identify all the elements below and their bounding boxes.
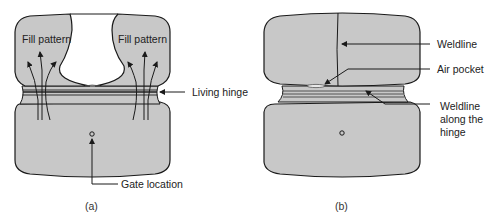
part-bottom-half-b	[264, 102, 420, 177]
panel-b: Weldline Air pocket Weldline along the h…	[264, 13, 484, 212]
caption-a: (a)	[85, 200, 98, 212]
living-hinge-diagram: Fill pattern Fill pattern Living hinge G…	[0, 0, 497, 220]
weldline-hinge-label-3: hinge	[440, 126, 466, 138]
panel-a: Fill pattern Fill pattern Living hinge G…	[15, 14, 248, 212]
caption-b: (b)	[335, 200, 348, 212]
weldline-label: Weldline	[437, 38, 477, 50]
weldline-hinge-label-1: Weldline	[440, 100, 480, 112]
air-pocket-label: Air pocket	[437, 63, 484, 75]
fill-front-right	[95, 14, 170, 86]
weldline-hinge-label-2: along the	[440, 113, 483, 125]
part-top-half-b	[264, 13, 420, 86]
living-hinge-label: Living hinge	[192, 86, 248, 98]
fill-pattern-label-right: Fill pattern	[118, 33, 167, 45]
air-pocket-marker	[307, 84, 325, 87]
gate-location-label: Gate location	[121, 178, 183, 190]
fill-pattern-label-left: Fill pattern	[22, 33, 71, 45]
fill-front-left	[15, 14, 90, 86]
